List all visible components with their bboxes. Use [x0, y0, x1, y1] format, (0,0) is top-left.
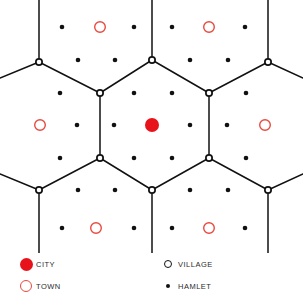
village-point [265, 187, 271, 193]
hamlet-point [170, 226, 175, 231]
town-point [91, 223, 102, 234]
hamlet-point [188, 123, 193, 128]
city-point [145, 118, 159, 132]
hamlet-point [112, 123, 117, 128]
hamlet-point [170, 91, 175, 96]
hamlet-point [58, 91, 63, 96]
town-point [95, 22, 106, 33]
village-point [206, 155, 212, 161]
hamlet-icon [158, 284, 178, 288]
hamlet-point [132, 25, 137, 30]
town-point [204, 223, 215, 234]
hamlet-point [113, 58, 118, 63]
city-point [145, 118, 159, 132]
hamlet-point [60, 226, 65, 231]
legend-label-village: VILLAGE [178, 260, 213, 269]
village-point [149, 187, 155, 193]
hamlet-point [75, 123, 80, 128]
town-icon [16, 280, 36, 292]
village-icon [158, 260, 178, 268]
village-point [36, 59, 42, 65]
village-point [149, 57, 155, 63]
legend: CITY TOWN VILLAGE HAMLET [0, 253, 303, 307]
legend-column-left: CITY TOWN [16, 253, 61, 297]
town-point [260, 120, 271, 131]
hamlet-point [76, 188, 81, 193]
village-point [206, 90, 212, 96]
hamlet-point [226, 188, 231, 193]
hamlet-point [170, 25, 175, 30]
legend-item-city: CITY [16, 253, 61, 275]
hamlet-point [244, 156, 249, 161]
legend-label-hamlet: HAMLET [178, 282, 211, 291]
hamlet-point [243, 226, 248, 231]
hamlet-point [244, 91, 249, 96]
hamlet-point [188, 188, 193, 193]
legend-label-city: CITY [36, 260, 55, 269]
legend-label-town: TOWN [36, 282, 61, 291]
central-place-diagram: CITY TOWN VILLAGE HAMLET [0, 0, 303, 307]
village-point [265, 59, 271, 65]
hamlet-point [58, 156, 63, 161]
town-point [35, 120, 46, 131]
legend-item-town: TOWN [16, 275, 61, 297]
hamlet-point [113, 188, 118, 193]
hamlet-point [225, 123, 230, 128]
village-point [97, 90, 103, 96]
hamlet-point [243, 25, 248, 30]
hamlet-point [60, 25, 65, 30]
hamlet-point [132, 156, 137, 161]
village-point [97, 155, 103, 161]
hamlet-point [170, 156, 175, 161]
hamlet-point [188, 58, 193, 63]
hamlet-point [76, 58, 81, 63]
town-point [204, 22, 215, 33]
legend-item-hamlet: HAMLET [158, 275, 213, 297]
legend-item-village: VILLAGE [158, 253, 213, 275]
lattice-svg [0, 0, 303, 253]
village-point [36, 187, 42, 193]
hamlet-point [132, 91, 137, 96]
hexagon-lattice-map [0, 0, 303, 253]
legend-column-right: VILLAGE HAMLET [158, 253, 213, 297]
hamlet-point [132, 226, 137, 231]
city-icon [16, 258, 36, 271]
hamlet-point [226, 58, 231, 63]
